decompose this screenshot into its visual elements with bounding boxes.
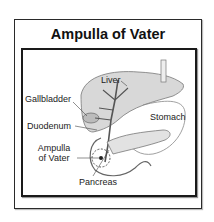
label-stomach: Stomach xyxy=(150,112,186,122)
label-pancreas: Pancreas xyxy=(79,177,117,187)
label-ampulla-line1: Ampulla xyxy=(33,143,75,153)
label-gallbladder: Gallbladder xyxy=(25,94,71,104)
label-ampulla-line2: of Vater xyxy=(33,153,75,163)
label-ampulla-of-vater: Ampulla of Vater xyxy=(33,143,75,163)
label-duodenum: Duodenum xyxy=(27,121,71,131)
diagram-frame: Ampulla of Vater xyxy=(14,19,202,209)
illustration-panel: Liver Gallbladder Stomach Duodenum Ampul… xyxy=(21,48,197,197)
diagram-title: Ampulla of Vater xyxy=(15,26,201,42)
label-liver: Liver xyxy=(101,75,121,85)
